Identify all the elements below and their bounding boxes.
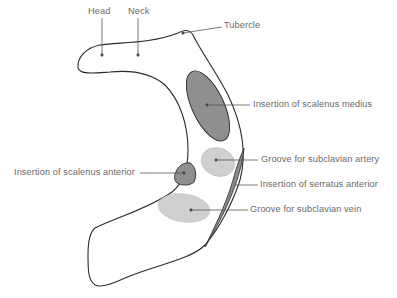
label-scalenus-medius: Insertion of scalenus medius <box>253 99 372 109</box>
label-subclavian-vein: Groove for subclavian vein <box>250 204 361 214</box>
label-tubercle: Tubercle <box>224 20 260 30</box>
first-rib-diagram <box>0 0 397 298</box>
label-head: Head <box>88 6 110 16</box>
label-neck: Neck <box>128 6 149 16</box>
label-scalenus-anterior: Insertion of scalenus anterior <box>14 167 135 177</box>
label-subclavian-artery: Groove for subclavian artery <box>261 154 379 164</box>
label-serratus-anterior: Insertion of serratus anterior <box>260 179 378 189</box>
